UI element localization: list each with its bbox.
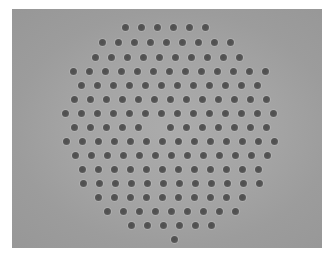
hole: [131, 39, 138, 46]
hole: [127, 194, 134, 201]
hole: [136, 152, 143, 159]
hole: [159, 194, 166, 201]
hole: [118, 68, 125, 75]
hole: [135, 96, 142, 103]
hole: [110, 110, 117, 117]
hole: [240, 180, 247, 187]
hole: [103, 124, 110, 131]
hole: [224, 180, 231, 187]
hole: [192, 222, 199, 229]
hole: [111, 166, 118, 173]
hole: [79, 138, 86, 145]
hole: [254, 82, 261, 89]
hole: [255, 166, 262, 173]
hole: [119, 124, 126, 131]
hole: [207, 194, 214, 201]
hole: [182, 68, 189, 75]
hole: [94, 110, 101, 117]
hole: [159, 166, 166, 173]
hole: [214, 68, 221, 75]
hole: [191, 138, 198, 145]
hole: [207, 138, 214, 145]
hole: [239, 138, 246, 145]
hole: [175, 138, 182, 145]
hole: [231, 124, 238, 131]
hole: [86, 68, 93, 75]
hole: [215, 96, 222, 103]
hole: [248, 152, 255, 159]
hole: [104, 152, 111, 159]
hole: [108, 54, 115, 61]
hole: [140, 54, 147, 61]
hole: [175, 194, 182, 201]
hole: [115, 39, 122, 46]
hole: [246, 68, 253, 75]
hole: [176, 180, 183, 187]
hole: [120, 152, 127, 159]
hole: [111, 138, 118, 145]
hole: [188, 54, 195, 61]
hole: [144, 222, 151, 229]
hole: [103, 96, 110, 103]
hole: [222, 110, 229, 117]
hole: [143, 138, 150, 145]
hole: [127, 166, 134, 173]
hole: [215, 124, 222, 131]
hole: [135, 124, 142, 131]
hole: [200, 152, 207, 159]
hole: [247, 96, 254, 103]
hole: [223, 138, 230, 145]
hole: [207, 166, 214, 173]
hole: [247, 124, 254, 131]
hole: [71, 124, 78, 131]
hole: [143, 194, 150, 201]
hole: [160, 180, 167, 187]
hole: [152, 152, 159, 159]
hole: [167, 96, 174, 103]
hole: [256, 180, 263, 187]
hole: [186, 24, 193, 31]
hole: [88, 152, 95, 159]
hole: [174, 110, 181, 117]
hole: [70, 68, 77, 75]
hole: [143, 166, 150, 173]
hole: [158, 82, 165, 89]
hole: [184, 208, 191, 215]
hole: [87, 124, 94, 131]
hole: [119, 96, 126, 103]
hole: [200, 208, 207, 215]
hole: [168, 208, 175, 215]
hole: [126, 110, 133, 117]
hole: [156, 54, 163, 61]
hole: [99, 39, 106, 46]
hole: [255, 138, 262, 145]
hole: [80, 180, 87, 187]
hole: [170, 24, 177, 31]
hole: [94, 82, 101, 89]
hole: [167, 124, 174, 131]
hole: [208, 222, 215, 229]
hole: [199, 96, 206, 103]
hole: [92, 54, 99, 61]
hole: [112, 180, 119, 187]
hole: [223, 166, 230, 173]
hole: [151, 96, 158, 103]
hole: [150, 68, 157, 75]
hole: [202, 24, 209, 31]
hole: [127, 138, 134, 145]
hole: [95, 166, 102, 173]
hole: [232, 208, 239, 215]
hole: [95, 194, 102, 201]
hole: [128, 180, 135, 187]
hole: [206, 110, 213, 117]
hole: [102, 68, 109, 75]
hole: [264, 152, 271, 159]
hole: [147, 39, 154, 46]
hole: [230, 68, 237, 75]
hole: [95, 138, 102, 145]
hole: [72, 152, 79, 159]
hole: [160, 222, 167, 229]
hole: [171, 236, 178, 243]
hole: [191, 166, 198, 173]
hole: [142, 110, 149, 117]
